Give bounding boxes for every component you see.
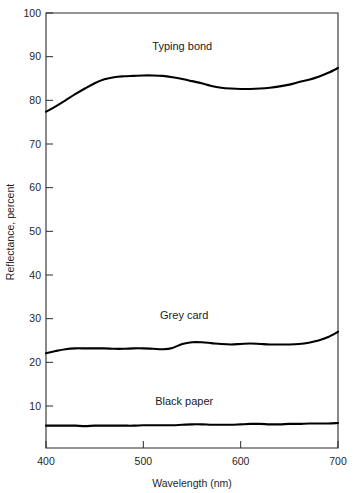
y-tick-label: 90	[29, 50, 41, 62]
y-tick-label: 60	[29, 181, 41, 193]
y-tick-label: 10	[29, 400, 41, 412]
x-axis-title: Wavelength (nm)	[152, 477, 232, 489]
reflectance-chart-svg: 102030405060708090100 400500600700 Typin…	[0, 0, 359, 493]
x-tick-label: 700	[329, 455, 347, 467]
y-tick-label: 30	[29, 312, 41, 324]
y-tick-label: 50	[29, 225, 41, 237]
y-tick-label: 20	[29, 356, 41, 368]
y-tick-label: 80	[29, 94, 41, 106]
series-label-black-paper: Black paper	[155, 395, 213, 407]
y-axis-title: Reflectance, percent	[4, 184, 16, 280]
x-tick-label: 400	[37, 455, 55, 467]
x-tick-label: 500	[135, 455, 153, 467]
x-tick-label: 600	[232, 455, 250, 467]
y-tick-label: 40	[29, 269, 41, 281]
y-tick-label: 70	[29, 138, 41, 150]
y-tick-label: 100	[23, 7, 41, 19]
reflectance-spectrum-figure: 102030405060708090100 400500600700 Typin…	[0, 0, 359, 493]
chart-background	[0, 0, 359, 493]
series-label-typing-bond: Typing bond	[152, 40, 212, 52]
series-label-grey-card: Grey card	[160, 309, 208, 321]
